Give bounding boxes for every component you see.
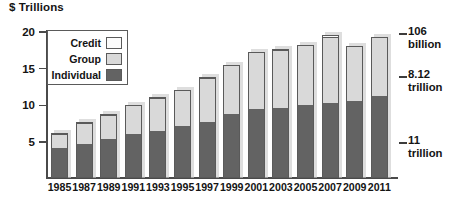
bar-stack (346, 46, 363, 178)
bar-segment-individual (372, 96, 387, 177)
bar-segment-individual (175, 126, 190, 177)
bar-stack (322, 35, 339, 178)
credit-annotation-value: 106 (408, 25, 441, 38)
bar-2003 (272, 49, 289, 178)
bar-1997 (199, 77, 216, 178)
y-axis-tick-label: 5 (29, 136, 35, 148)
x-axis-label: 1997 (195, 181, 219, 193)
bar-segment-group (372, 37, 387, 96)
group-annotation-value: 8.12 (408, 68, 443, 81)
credit-annotation-tick (399, 33, 407, 35)
bar-2011 (371, 37, 388, 178)
x-axis-label: 2001 (245, 181, 269, 193)
bar-segment-group (273, 50, 288, 108)
bar-stack (371, 37, 388, 178)
bar-stack (199, 77, 216, 178)
bar-segment-group (175, 90, 190, 126)
y-axis-tick-label: 20 (22, 26, 35, 38)
legend-swatch-group (106, 53, 122, 65)
individual-annotation-value: 11 (408, 134, 443, 147)
credit-annotation: 106 billion (408, 25, 441, 51)
bar-stack (272, 49, 289, 178)
bar-segment-individual (224, 114, 239, 177)
legend-item-label: Credit (70, 37, 101, 49)
x-axis-label: 1985 (48, 181, 72, 193)
bar-stack (149, 97, 166, 178)
bar-segment-group (52, 134, 67, 149)
x-axis-label: 1987 (72, 181, 96, 193)
y-axis-tick-label: 15 (22, 62, 35, 74)
bar-stack (51, 133, 68, 178)
bar-segment-credit (323, 35, 338, 36)
bar-1999 (223, 65, 240, 178)
x-axis-label: 2003 (269, 181, 293, 193)
bar-1991 (125, 105, 142, 179)
bar-segment-group (347, 46, 362, 101)
legend-item-label: Individual (52, 69, 101, 81)
stacked-bar-chart: $ Trillions 5101520 19851987198919911993… (0, 0, 469, 206)
bar-segment-group (298, 45, 313, 105)
bar-segment-group (224, 65, 239, 114)
x-axis-label: 1989 (97, 181, 121, 193)
x-axis-label: 2009 (343, 181, 367, 193)
bar-2001 (248, 52, 265, 178)
bar-segment-individual (347, 101, 362, 177)
bar-2005 (297, 45, 314, 178)
bar-segment-individual (273, 108, 288, 177)
bar-segment-group (200, 78, 215, 122)
legend-item-credit: Credit (51, 35, 122, 50)
individual-annotation-tick (399, 142, 407, 144)
bar-segment-individual (77, 144, 92, 177)
bar-stack (76, 122, 93, 178)
chart-legend: Credit Group Individual (47, 30, 128, 85)
bar-2007 (322, 35, 339, 178)
bar-segment-group (77, 123, 92, 144)
legend-item-individual: Individual (51, 67, 122, 82)
bar-segment-individual (150, 131, 165, 177)
bar-segment-individual (126, 134, 141, 177)
bar-1993 (149, 97, 166, 178)
group-annotation: 8.12 trillion (408, 68, 443, 94)
y-axis-title: $ Trillions (9, 1, 64, 13)
credit-annotation-unit: billion (408, 38, 441, 51)
x-axis-label: 1999 (220, 181, 244, 193)
bar-segment-individual (323, 103, 338, 177)
bar-stack (297, 45, 314, 178)
bar-segment-group (150, 98, 165, 131)
bar-2009 (346, 46, 363, 178)
legend-item-label: Group (69, 53, 101, 65)
bar-segment-individual (101, 139, 116, 177)
bar-segment-group (126, 105, 141, 134)
x-axis-label: 2005 (294, 181, 318, 193)
bar-segment-individual (298, 105, 313, 177)
x-axis-label: 2007 (318, 181, 342, 193)
bar-segment-individual (249, 109, 264, 177)
legend-swatch-credit (106, 37, 122, 49)
bar-segment-group (323, 37, 338, 103)
y-axis-tick-label: 10 (22, 99, 35, 111)
bar-1987 (76, 122, 93, 178)
individual-annotation-unit: trillion (408, 147, 443, 160)
x-axis-label: 1995 (171, 181, 195, 193)
x-axis-label: 1991 (122, 181, 146, 193)
bar-segment-group (101, 115, 116, 139)
bar-1989 (100, 114, 117, 178)
bar-segment-group (249, 52, 264, 109)
x-axis-label: 2011 (368, 181, 391, 193)
bar-stack (248, 52, 265, 178)
x-axis-label: 1993 (146, 181, 170, 193)
group-annotation-tick (399, 76, 407, 78)
individual-annotation: 11 trillion (408, 134, 443, 160)
bar-stack (174, 90, 191, 178)
bar-stack (100, 114, 117, 178)
group-annotation-unit: trillion (408, 81, 443, 94)
bar-1985 (51, 133, 68, 178)
legend-swatch-individual (106, 69, 122, 81)
bar-1995 (174, 90, 191, 178)
bar-stack (125, 105, 142, 179)
bar-stack (223, 65, 240, 178)
legend-item-group: Group (51, 51, 122, 66)
bar-segment-individual (52, 148, 67, 177)
bar-segment-individual (200, 122, 215, 177)
